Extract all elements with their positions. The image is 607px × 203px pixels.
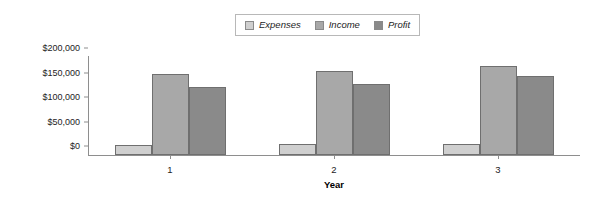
- y-axis-tick: $200,000: [42, 44, 88, 53]
- legend-label-income: Income: [329, 20, 360, 30]
- x-axis-tick-mark: [334, 155, 335, 159]
- y-axis-tick-label: $100,000: [42, 93, 84, 102]
- bar-group-year-1: 1: [88, 57, 252, 155]
- legend-label-expenses: Expenses: [259, 20, 301, 30]
- legend-item-expenses: Expenses: [245, 20, 301, 30]
- legend-swatch-expenses: [245, 21, 254, 30]
- legend-item-income: Income: [315, 20, 360, 30]
- bar-income-year-2: [316, 71, 353, 155]
- x-axis-tick-mark: [498, 155, 499, 159]
- x-axis-tick-label: 3: [495, 165, 500, 175]
- x-axis-tick-label: 1: [167, 165, 172, 175]
- y-axis-tick-label: $0: [70, 142, 84, 151]
- legend-swatch-income: [315, 21, 324, 30]
- bar-expenses-year-2: [279, 144, 316, 155]
- bar-profit-year-1: [189, 87, 226, 155]
- y-axis-tick-label: $200,000: [42, 44, 84, 53]
- bar-income-year-1: [152, 74, 189, 155]
- bar-profit-year-2: [353, 84, 390, 155]
- y-axis-tick: $150,000: [42, 68, 88, 77]
- chart-legend: Expenses Income Profit: [235, 14, 420, 36]
- bar-expenses-year-3: [443, 144, 480, 155]
- y-axis-tick-label: $150,000: [42, 68, 84, 77]
- bar-chart: Expenses Income Profit $0$50,000$100,000…: [0, 0, 607, 203]
- x-axis-title: Year: [88, 180, 580, 190]
- plot-area: $0$50,000$100,000$150,000$200,000 123: [88, 57, 580, 155]
- y-axis-tick: $100,000: [42, 93, 88, 102]
- bar-group-bars: [279, 57, 390, 155]
- bar-expenses-year-1: [115, 145, 152, 155]
- bar-income-year-3: [480, 66, 517, 155]
- y-axis-tick-mark: [84, 48, 88, 49]
- bar-group-bars: [115, 57, 226, 155]
- bar-group-year-3: 3: [416, 57, 580, 155]
- x-axis-tick-mark: [170, 155, 171, 159]
- x-axis-tick-label: 2: [331, 165, 336, 175]
- legend-item-profit: Profit: [374, 20, 410, 30]
- bar-group-bars: [443, 57, 554, 155]
- bar-profit-year-3: [517, 76, 554, 155]
- legend-label-profit: Profit: [388, 20, 410, 30]
- y-axis-tick-label: $50,000: [47, 117, 84, 126]
- y-axis-tick: $0: [70, 142, 88, 151]
- y-axis-tick: $50,000: [47, 117, 88, 126]
- legend-swatch-profit: [374, 21, 383, 30]
- bar-group-year-2: 2: [252, 57, 416, 155]
- bar-groups: 123: [88, 57, 580, 155]
